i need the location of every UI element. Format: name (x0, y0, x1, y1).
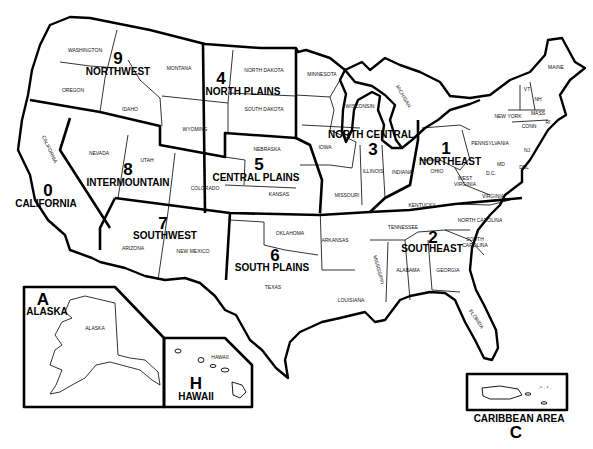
hawaii-inset: HAWAII H HAWAII (164, 338, 252, 407)
svg-text:CAROLINA: CAROLINA (462, 242, 488, 248)
svg-text:OREGON: OREGON (62, 87, 85, 93)
region-boundary (115, 198, 320, 215)
svg-text:WISCONSIN: WISCONSIN (346, 103, 375, 109)
us-regions-map: WASHINGTON OREGON IDAHO MONTANA WYOMING … (0, 0, 593, 449)
svg-text:NORTHWEST: NORTHWEST (86, 66, 150, 77)
svg-text:KENTUCKY: KENTUCKY (408, 202, 436, 208)
svg-text:TEXAS: TEXAS (265, 284, 282, 290)
svg-text:NORTH PLAINS: NORTH PLAINS (206, 86, 281, 97)
svg-text:SOUTHWEST: SOUTHWEST (133, 230, 197, 241)
svg-text:3: 3 (368, 140, 377, 159)
svg-text:DEL: DEL (519, 164, 529, 170)
svg-text:MINNESOTA: MINNESOTA (307, 71, 337, 77)
svg-text:IOWA: IOWA (318, 144, 332, 150)
svg-text:ARKANSAS: ARKANSAS (321, 237, 349, 243)
svg-text:NORTH CAROLINA: NORTH CAROLINA (458, 217, 503, 223)
svg-text:HAWAII: HAWAII (211, 354, 228, 360)
svg-text:ALASKA: ALASKA (85, 325, 105, 331)
svg-text:INTERMOUNTAIN: INTERMOUNTAIN (86, 177, 169, 188)
svg-text:FLORIDA: FLORIDA (468, 308, 486, 330)
svg-text:KANSAS: KANSAS (269, 191, 290, 197)
svg-text:MONTANA: MONTANA (167, 65, 192, 71)
svg-text:TENNESSEE: TENNESSEE (388, 224, 419, 230)
svg-text:OHIO: OHIO (431, 168, 444, 174)
region-boundary (60, 118, 110, 228)
svg-text:NEW YORK: NEW YORK (494, 113, 522, 119)
svg-text:MICHIGAN: MICHIGAN (395, 84, 413, 109)
svg-text:NEBRASKA: NEBRASKA (253, 146, 281, 152)
svg-text:GEORGIA: GEORGIA (436, 267, 460, 273)
alaska-inset: A ALASKA ALASKA (24, 287, 164, 407)
svg-text:VIRGINIA: VIRGINIA (482, 193, 505, 199)
svg-text:MASS: MASS (531, 110, 546, 116)
svg-text:NH: NH (534, 96, 542, 102)
svg-text:D.C.: D.C. (486, 170, 496, 176)
svg-text:MAINE: MAINE (548, 64, 565, 70)
svg-text:VT: VT (524, 86, 530, 92)
svg-text:CALIFORNIA: CALIFORNIA (41, 134, 59, 164)
svg-text:SOUTH PLAINS: SOUTH PLAINS (235, 262, 310, 273)
caribbean-inset: ·° · ° · CARIBBEAN AREA C (467, 374, 567, 442)
svg-text:IDAHO: IDAHO (122, 106, 138, 112)
svg-text:NORTH CENTRAL: NORTH CENTRAL (328, 129, 414, 140)
svg-text:C: C (510, 423, 522, 442)
svg-text:·° · ° ·: ·° · ° · (538, 385, 551, 391)
svg-text:CENTRAL PLAINS: CENTRAL PLAINS (212, 172, 299, 183)
svg-text:MISSOURI: MISSOURI (335, 192, 360, 198)
svg-text:ARIZONA: ARIZONA (122, 245, 145, 251)
svg-text:MISSISSIPPI: MISSISSIPPI (372, 254, 385, 284)
svg-text:HAWAII: HAWAII (178, 391, 214, 402)
svg-text:NJ: NJ (524, 147, 531, 153)
svg-text:ILLINOIS: ILLINOIS (363, 168, 384, 174)
svg-text:MD: MD (497, 161, 505, 167)
svg-text:LOUISIANA: LOUISIANA (338, 297, 365, 303)
svg-text:INDIANA: INDIANA (392, 169, 413, 175)
svg-text:OKLAHOMA: OKLAHOMA (276, 230, 305, 236)
svg-text:WYOMING: WYOMING (183, 126, 208, 132)
svg-text:UTAH: UTAH (140, 157, 154, 163)
svg-text:CONN: CONN (522, 123, 537, 129)
region-boundary (226, 213, 230, 280)
svg-text:PENNSYLVANIA: PENNSYLVANIA (471, 140, 509, 146)
svg-text:NORTHEAST: NORTHEAST (419, 156, 481, 167)
svg-text:VIRGINIA: VIRGINIA (454, 181, 477, 187)
svg-text:ALABAMA: ALABAMA (396, 267, 420, 273)
svg-text:CALIFORNIA: CALIFORNIA (15, 198, 77, 209)
svg-text:WASHINGTON: WASHINGTON (68, 47, 103, 53)
svg-text:SOUTH DAKOTA: SOUTH DAKOTA (244, 106, 284, 112)
svg-text:NEVADA: NEVADA (89, 150, 110, 156)
svg-text:COLORADO: COLORADO (191, 185, 220, 191)
svg-text:ALASKA: ALASKA (26, 306, 68, 317)
svg-text:NORTH DAKOTA: NORTH DAKOTA (244, 67, 284, 73)
svg-text:NEW MEXICO: NEW MEXICO (177, 248, 210, 254)
region-labels: 9 NORTHWEST 4 NORTH PLAINS NORTH CENTRAL… (15, 49, 481, 273)
svg-text:SOUTHEAST: SOUTHEAST (401, 243, 463, 254)
svg-text:RI: RI (546, 119, 551, 125)
